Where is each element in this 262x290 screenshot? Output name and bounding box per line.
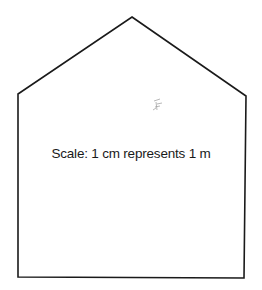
house-outline (0, 0, 262, 290)
pencil-smudge-icon (153, 99, 162, 110)
scale-label: Scale: 1 cm represents 1 m (0, 146, 262, 161)
house-diagram: Scale: 1 cm represents 1 m (0, 0, 262, 290)
